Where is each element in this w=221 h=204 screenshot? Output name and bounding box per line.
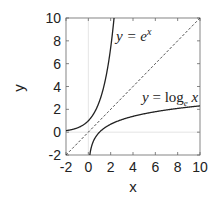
y-tick-label: 6 bbox=[53, 56, 61, 72]
y-tick-label: -2 bbox=[49, 147, 62, 163]
x-tick-label: 2 bbox=[107, 159, 115, 175]
y-tick-label: 8 bbox=[53, 33, 61, 49]
ln-annotation: y = loge x bbox=[140, 89, 199, 108]
y-tick-label: 10 bbox=[45, 10, 61, 26]
y-tick-label: 4 bbox=[53, 79, 61, 95]
chart: -20246810-20246810 y = ex y = loge x x y bbox=[0, 0, 221, 204]
y-tick-label: 2 bbox=[53, 101, 61, 117]
x-tick-label: -2 bbox=[60, 159, 73, 175]
x-tick-label: 10 bbox=[192, 159, 208, 175]
ln-curve bbox=[90, 106, 200, 155]
x-tick-label: 6 bbox=[151, 159, 159, 175]
exp-annotation: y = ex bbox=[114, 26, 152, 44]
x-axis-label: x bbox=[129, 178, 137, 195]
exp-curve bbox=[66, 18, 114, 131]
y-axis-label: y bbox=[10, 84, 27, 92]
x-tick-label: 8 bbox=[174, 159, 182, 175]
x-tick-label: 0 bbox=[84, 159, 92, 175]
x-tick-label: 4 bbox=[129, 159, 137, 175]
y-tick-label: 0 bbox=[53, 124, 61, 140]
